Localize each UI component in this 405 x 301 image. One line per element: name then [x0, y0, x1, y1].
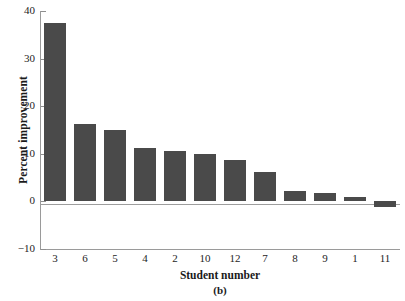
y-tick-label: 20: [24, 99, 35, 111]
bar: [344, 197, 366, 201]
bar: [284, 191, 306, 201]
bar: [314, 193, 336, 201]
bar: [254, 172, 276, 202]
bar: [374, 201, 396, 207]
bar: [104, 130, 126, 202]
x-tick-label: 3: [38, 252, 72, 264]
y-tick-label: 0: [30, 194, 36, 206]
y-tick-5: −10: [41, 249, 46, 250]
bar: [134, 148, 156, 201]
x-tick-label: 10: [188, 252, 222, 264]
x-tick-label: 8: [278, 252, 312, 264]
x-tick-label: 12: [218, 252, 252, 264]
panel-label: (b): [40, 284, 400, 296]
x-tick-label: 1: [338, 252, 372, 264]
y-tick-label: 10: [24, 147, 35, 159]
x-tick-label: 2: [158, 252, 192, 264]
x-tick-label: 9: [308, 252, 342, 264]
x-tick-label: 6: [68, 252, 102, 264]
bar: [224, 160, 246, 202]
y-tick-mark: [41, 249, 46, 250]
bar: [194, 154, 216, 201]
y-tick-label: 30: [24, 52, 35, 64]
bar: [44, 23, 66, 201]
x-axis-title: Student number: [40, 269, 400, 281]
y-tick-label: −10: [18, 242, 35, 254]
x-tick-label: 4: [128, 252, 162, 264]
x-axis-line: [40, 249, 400, 250]
bar-chart-figure: Percent improvement 403020100−10 3654210…: [0, 0, 405, 301]
x-tick-label: 7: [248, 252, 282, 264]
bar-series: [40, 11, 400, 249]
x-tick-label: 5: [98, 252, 132, 264]
y-tick-label: 40: [24, 4, 35, 16]
x-tick-label: 11: [368, 252, 402, 264]
bar: [74, 124, 96, 201]
bar: [164, 151, 186, 201]
